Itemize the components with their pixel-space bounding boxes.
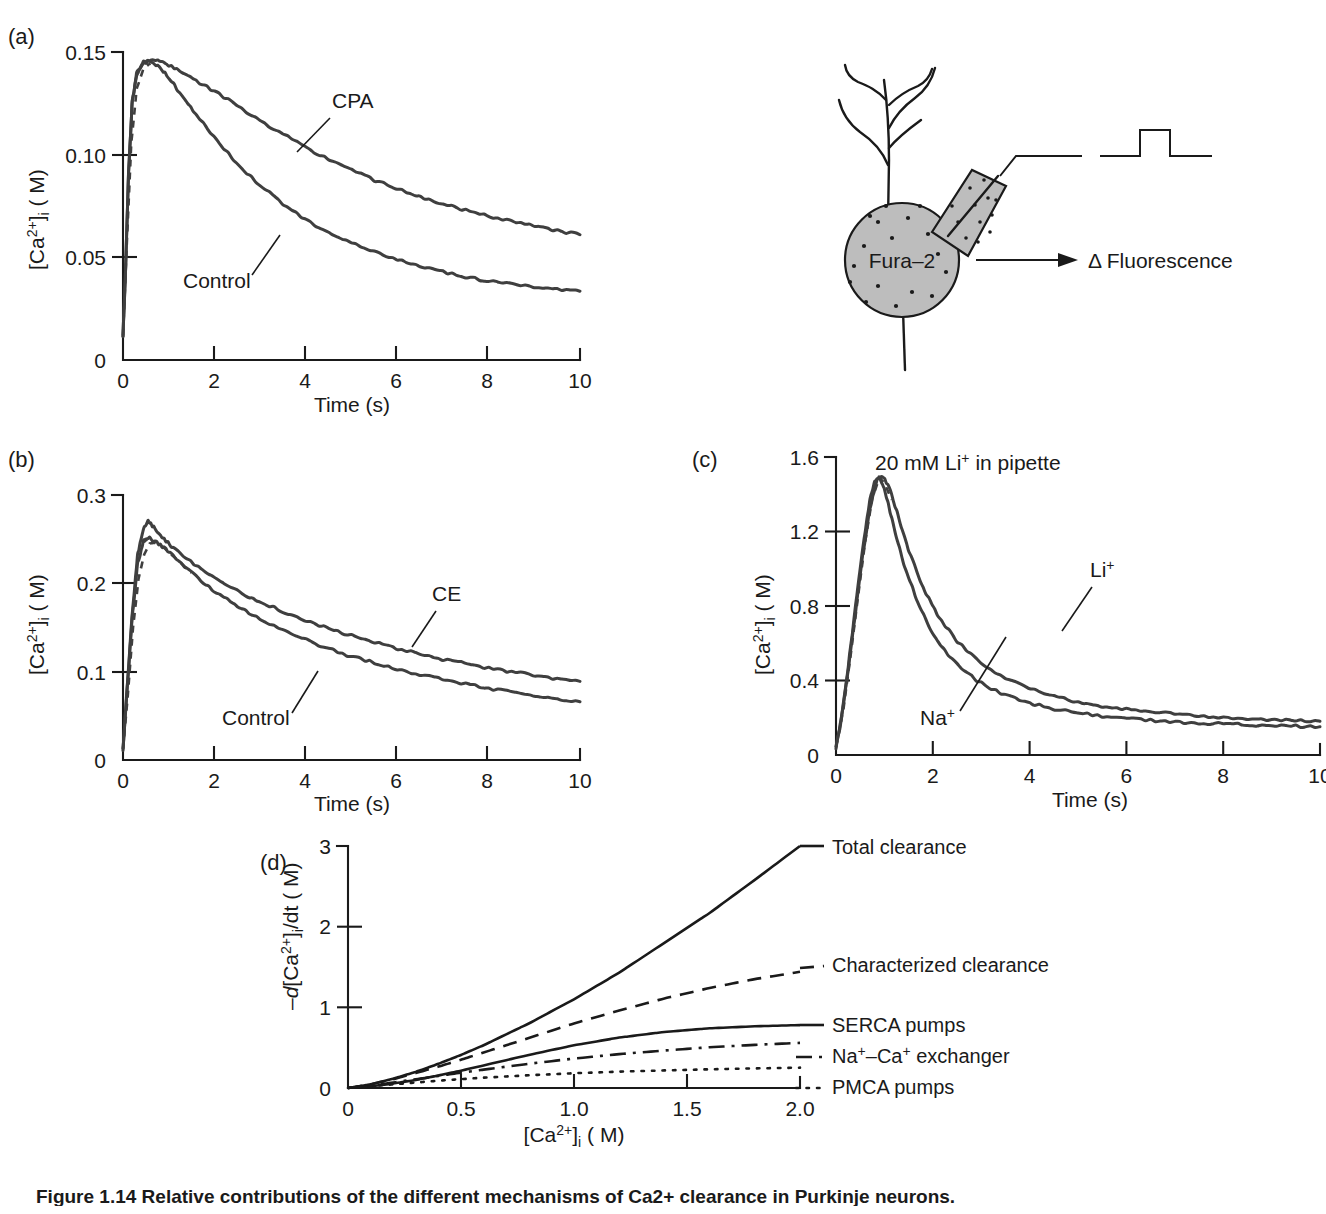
svg-text:2: 2 — [319, 915, 331, 938]
panel-d-y-axis-title: –d[Ca2+]i/dt ( M) — [278, 863, 306, 1011]
svg-text:0: 0 — [94, 349, 106, 372]
dendrite-icon — [839, 65, 935, 222]
series-ce — [123, 520, 580, 750]
panel-b-y-axis-title: [Ca2+]i ( M) — [24, 574, 52, 675]
svg-text:Na+: Na+ — [920, 705, 955, 729]
panel-a-letter: (a) — [8, 24, 35, 49]
step-pulse-icon — [1000, 130, 1212, 176]
panel-c: (c) [Ca2+]i ( M) 20 mM Li+ in pipette — [620, 425, 1326, 815]
panel-d-x-axis-title: [Ca2+]i ( M) — [524, 1122, 625, 1150]
svg-text:10: 10 — [568, 369, 591, 392]
panel-b-label-control: Control — [222, 671, 318, 729]
svg-text:8: 8 — [1217, 764, 1229, 787]
legend-label-total-clearance: Total clearance — [832, 836, 967, 858]
panel-c-y-tick-labels: 0 0.4 0.8 1.2 1.6 — [790, 446, 820, 767]
svg-text:4: 4 — [1024, 764, 1036, 787]
panel-c-label-li: Li+ — [1062, 557, 1115, 631]
series-rising-dashed-overlay — [123, 543, 192, 750]
soma-label: Fura–2 — [869, 249, 936, 272]
svg-text:6: 6 — [390, 769, 402, 792]
svg-text:0: 0 — [807, 744, 819, 767]
panel-c-x-axis-title: Time (s) — [1052, 788, 1128, 811]
svg-text:1.6: 1.6 — [790, 446, 819, 469]
svg-text:8: 8 — [481, 369, 493, 392]
svg-text:Control: Control — [222, 706, 290, 729]
svg-text:[Ca2+]i ( M): [Ca2+]i ( M) — [24, 169, 52, 270]
panel-b-y-tick-labels: 0 0.1 0.2 0.3 — [77, 484, 106, 772]
svg-text:4: 4 — [299, 369, 311, 392]
svg-text:0: 0 — [830, 764, 842, 787]
svg-text:2: 2 — [208, 769, 220, 792]
svg-text:0.1: 0.1 — [77, 661, 106, 684]
legend-stub-characterized-clearance — [800, 966, 824, 968]
panel-a: (a) [Ca2+]i ( M) — [0, 0, 620, 420]
series-rising-dashed-overlay — [836, 477, 892, 747]
svg-text:0.10: 0.10 — [65, 144, 106, 167]
panel-neuron-diagram: Fura–2 — [820, 10, 1326, 410]
svg-text:Control: Control — [183, 269, 251, 292]
svg-text:0.8: 0.8 — [790, 595, 819, 618]
panel-b-traces — [123, 520, 580, 750]
panel-d: (d) –d[Ca2+]i/dt ( M) 0 — [240, 820, 1240, 1180]
panel-b-label-ce: CE — [412, 582, 461, 647]
panel-d-legend: Total clearance Characterized clearance … — [796, 836, 1049, 1098]
panel-c-axes — [825, 457, 1320, 755]
svg-text:0: 0 — [117, 369, 129, 392]
svg-text:CPA: CPA — [332, 89, 374, 112]
panel-c-letter: (c) — [692, 447, 718, 472]
panel-d-traces — [348, 846, 800, 1088]
svg-text:0: 0 — [319, 1077, 331, 1100]
svg-text:3: 3 — [319, 835, 331, 858]
svg-text:0: 0 — [94, 749, 106, 772]
svg-text:0.3: 0.3 — [77, 484, 106, 507]
svg-text:0: 0 — [117, 769, 129, 792]
svg-text:6: 6 — [1121, 764, 1133, 787]
panel-d-y-tick-labels: 0 1 2 3 — [319, 835, 331, 1100]
svg-text:0: 0 — [342, 1097, 354, 1120]
series-na — [836, 478, 1320, 746]
panel-c-title: 20 mM Li+ in pipette — [875, 450, 1061, 474]
svg-text:2: 2 — [208, 369, 220, 392]
panel-b-letter: (b) — [8, 447, 35, 472]
panel-c-x-tick-labels: 0 2 4 6 8 10 — [830, 764, 1326, 787]
panel-a-label-control: Control — [183, 235, 280, 292]
svg-text:0.05: 0.05 — [65, 246, 106, 269]
legend-label-pmca-pumps: PMCA pumps — [832, 1076, 954, 1098]
panel-b-axes — [112, 495, 580, 760]
svg-text:0.5: 0.5 — [446, 1097, 475, 1120]
panel-c-y-axis-title: [Ca2+]i ( M) — [750, 574, 778, 675]
panel-b: (b) [Ca2+]i ( M) 0 — [0, 425, 620, 815]
series-control — [123, 537, 580, 748]
svg-text:6: 6 — [390, 369, 402, 392]
svg-text:8: 8 — [481, 769, 493, 792]
figure-caption-text: Figure 1.14 Relative contributions of th… — [0, 1186, 1326, 1206]
svg-text:–d[Ca2+]i/dt ( M): –d[Ca2+]i/dt ( M) — [278, 863, 306, 1011]
panel-a-y-tick-labels: 0 0.05 0.10 0.15 — [65, 41, 106, 372]
svg-text:0.2: 0.2 — [77, 572, 106, 595]
panel-b-x-axis-title: Time (s) — [314, 792, 390, 815]
svg-text:10: 10 — [1308, 764, 1326, 787]
panel-a-x-tick-labels: 0 2 4 6 8 10 — [117, 369, 592, 392]
legend-label-characterized-clearance: Characterized clearance — [832, 954, 1049, 976]
panel-a-y-axis-title: [Ca2+]i ( M) — [24, 169, 52, 270]
svg-text:CE: CE — [432, 582, 461, 605]
panel-a-x-axis-title: Time (s) — [314, 393, 390, 416]
figure-caption: Figure 1.14 Relative contributions of th… — [0, 1186, 1326, 1214]
svg-text:1: 1 — [319, 996, 331, 1019]
legend-label-serca-pumps: SERCA pumps — [832, 1014, 965, 1036]
svg-text:0.15: 0.15 — [65, 41, 106, 64]
series-total-clearance — [348, 846, 800, 1088]
panel-c-traces — [836, 476, 1320, 748]
svg-text:2: 2 — [927, 764, 939, 787]
svg-text:0.4: 0.4 — [790, 669, 820, 692]
svg-text:Li+: Li+ — [1090, 557, 1115, 581]
panel-b-x-tick-labels: 0 2 4 6 8 10 — [117, 769, 592, 792]
svg-text:1.0: 1.0 — [559, 1097, 588, 1120]
svg-text:1.5: 1.5 — [672, 1097, 701, 1120]
svg-text:4: 4 — [299, 769, 311, 792]
series-li — [836, 476, 1320, 748]
axon-icon — [903, 310, 905, 370]
panel-d-axes — [337, 846, 800, 1088]
legend-label-na-ca-exchanger: Na+–Ca+ exchanger — [832, 1043, 1010, 1067]
panel-a-label-cpa: CPA — [297, 89, 374, 152]
